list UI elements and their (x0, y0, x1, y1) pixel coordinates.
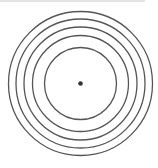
center-dot (78, 81, 83, 86)
concentric-circles-diagram (0, 0, 158, 168)
